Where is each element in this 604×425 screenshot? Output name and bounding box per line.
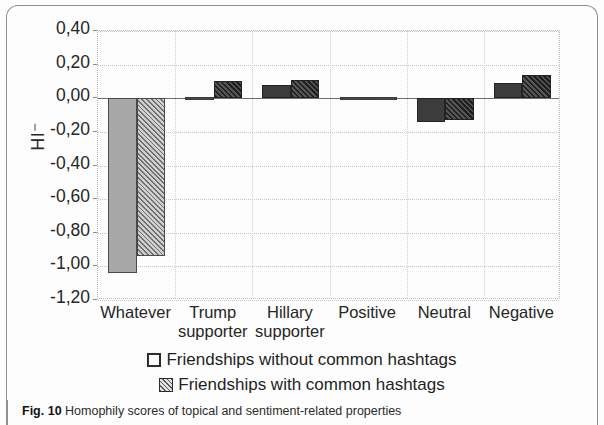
x-axis-label-line1: Neutral xyxy=(418,303,471,321)
legend-label: Friendships with common hashtags xyxy=(178,375,444,395)
legend-item: Friendships without common hashtags xyxy=(0,347,604,372)
gridline xyxy=(98,233,559,234)
x-axis-tick-labels: WhateverTrumpsupporterHillarysupporterPo… xyxy=(97,303,560,347)
y-axis-tick-label: -0,20 xyxy=(50,119,90,140)
x-axis-tick-label: Whatever xyxy=(97,303,174,322)
caption-divider xyxy=(6,400,8,425)
caption-text: Homophily scores of topical and sentimen… xyxy=(65,404,401,418)
y-axis-tick-label: -0,80 xyxy=(50,220,90,241)
figure-caption: Fig. 10 Homophily scores of topical and … xyxy=(22,404,592,425)
x-axis-tick-label: Positive xyxy=(329,303,406,322)
x-axis-label-line2: supporter xyxy=(174,322,251,341)
bar xyxy=(262,85,291,98)
x-axis-label-line1: Positive xyxy=(338,303,396,321)
category-separator xyxy=(330,31,331,298)
x-axis-label-line1: Trump xyxy=(189,303,236,321)
y-axis-tick-label: 0,00 xyxy=(56,85,90,106)
category-separator xyxy=(484,31,485,298)
x-axis-tick-label: Negative xyxy=(483,303,560,322)
x-axis-label-line1: Whatever xyxy=(100,303,171,321)
gridline xyxy=(98,65,559,66)
gridline xyxy=(98,166,559,167)
x-axis-tick-label: Trumpsupporter xyxy=(174,303,251,341)
bar xyxy=(494,83,523,98)
bar-chart: HI⁻ 0,400,200,00-0,20-0,40-0,60-0,80-1,0… xyxy=(0,0,604,425)
caption-figure-number: Fig. 10 xyxy=(22,404,62,418)
tick-mark xyxy=(93,299,97,300)
chart-legend: Friendships without common hashtags Frie… xyxy=(0,347,604,397)
category-separator xyxy=(407,31,408,298)
category-separator xyxy=(175,31,176,298)
gridline xyxy=(98,199,559,200)
x-axis-tick-label: Hillarysupporter xyxy=(251,303,328,341)
plot-area xyxy=(97,30,560,299)
bar xyxy=(340,97,369,100)
gridline xyxy=(98,300,559,301)
bar xyxy=(445,98,474,120)
x-axis-label-line1: Negative xyxy=(489,303,554,321)
y-axis-tick-label: 0,20 xyxy=(56,52,90,73)
gridline xyxy=(98,132,559,133)
y-axis-tick-label: -1,20 xyxy=(50,287,90,308)
category-separator xyxy=(252,31,253,298)
x-axis-label-line1: Hillary xyxy=(267,303,313,321)
y-axis-tick-label: -1,00 xyxy=(50,253,90,274)
figure-container: HI⁻ 0,400,200,00-0,20-0,40-0,60-0,80-1,0… xyxy=(0,0,604,425)
bar xyxy=(368,97,397,100)
bar xyxy=(185,97,214,100)
y-axis-tick-label: 0,40 xyxy=(56,18,90,39)
y-axis-tick-label: -0,60 xyxy=(50,186,90,207)
x-axis-tick-label: Neutral xyxy=(406,303,483,322)
y-axis-tick-label: -0,40 xyxy=(50,153,90,174)
gridline xyxy=(98,266,559,267)
gridline xyxy=(98,31,559,32)
bar xyxy=(291,80,320,98)
legend-label: Friendships without common hashtags xyxy=(166,350,456,370)
open-square-icon xyxy=(147,353,161,367)
zero-axis-line xyxy=(98,98,559,99)
bar xyxy=(417,98,446,122)
x-axis-label-line2: supporter xyxy=(251,322,328,341)
legend-item: Friendships with common hashtags xyxy=(0,372,604,397)
bar xyxy=(214,81,243,98)
hatched-square-icon xyxy=(159,378,173,392)
bar xyxy=(522,75,551,99)
bar xyxy=(137,98,166,256)
bar xyxy=(108,98,137,273)
